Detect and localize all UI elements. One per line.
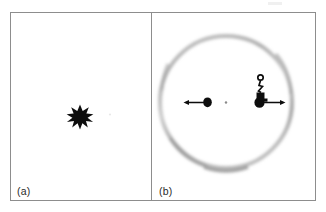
panel-b-canvas (152, 12, 316, 201)
panel-b: (b) (152, 12, 316, 201)
left-velocity-arrow (184, 100, 206, 105)
marker-bar (258, 99, 268, 102)
panel-b-label: (b) (159, 186, 172, 197)
upper-ring-knot-icon (258, 75, 263, 80)
left-blob-marker (203, 97, 212, 107)
scan-artifact (268, 2, 282, 5)
ring-arc-upper-left (162, 64, 168, 90)
panel-a-canvas (10, 12, 151, 201)
center-speck-marker (225, 101, 227, 103)
figure-root: (a) (0, 0, 326, 212)
central-starburst-marker (67, 105, 94, 130)
faint-speck-marker (109, 113, 111, 115)
panel-a: (a) (10, 12, 151, 201)
panel-a-label: (a) (17, 186, 30, 197)
connector-stem-icon (259, 81, 263, 93)
